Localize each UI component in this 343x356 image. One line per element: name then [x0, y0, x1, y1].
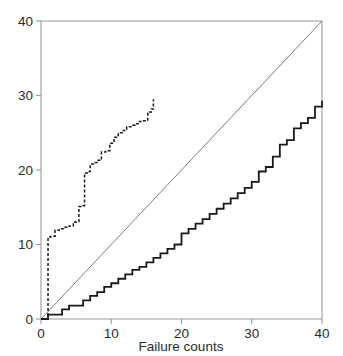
- x-tick-label-0: 0: [37, 326, 45, 341]
- series-reference-diagonal: [41, 21, 322, 319]
- data-series-layer: [41, 21, 322, 319]
- y-tick-label-20: 20: [18, 163, 33, 178]
- y-tick-label-30: 30: [18, 88, 33, 103]
- y-axis-ticks: [36, 21, 41, 319]
- x-axis-title: Failure counts: [139, 339, 224, 354]
- chart-figure: 010203040 010203040 Failure counts: [0, 0, 343, 356]
- x-tick-label-40: 40: [314, 326, 329, 341]
- y-tick-label-10: 10: [18, 237, 33, 252]
- series-lower-step-curve: [41, 101, 322, 319]
- failure-counts-plot: 010203040 010203040 Failure counts: [0, 0, 343, 356]
- x-tick-label-30: 30: [244, 326, 259, 341]
- series-upper-step-curve: [41, 99, 153, 319]
- y-tick-label-0: 0: [25, 312, 33, 327]
- y-axis-tick-labels: 010203040: [18, 14, 33, 327]
- x-axis-ticks: [41, 319, 322, 324]
- y-tick-label-40: 40: [18, 14, 33, 29]
- x-tick-label-10: 10: [104, 326, 119, 341]
